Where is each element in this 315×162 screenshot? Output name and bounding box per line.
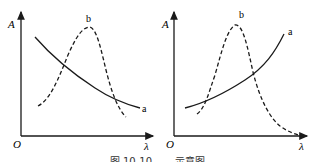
left-curve-a	[35, 37, 140, 108]
left-origin-label: O	[13, 138, 21, 150]
figure-caption: 图 10-10 ……示意图	[0, 156, 315, 162]
right-curve-a	[185, 34, 284, 108]
left-curve-b	[38, 27, 126, 117]
figure-diagram: A λ O a b A λ O a b	[0, 0, 315, 162]
right-curve-b	[197, 25, 302, 136]
right-origin-label: O	[166, 138, 174, 150]
left-curve-a-label: a	[142, 103, 147, 114]
right-curve-a-label: a	[288, 26, 293, 37]
left-panel: A λ O a b	[7, 12, 153, 152]
right-y-label: A	[161, 18, 169, 30]
left-curve-b-label: b	[86, 13, 91, 24]
right-curve-b-label: b	[239, 9, 244, 20]
left-x-label: λ	[143, 140, 149, 152]
right-panel: A λ O a b	[161, 9, 307, 152]
left-y-label: A	[7, 18, 15, 30]
right-x-label: λ	[298, 140, 304, 152]
